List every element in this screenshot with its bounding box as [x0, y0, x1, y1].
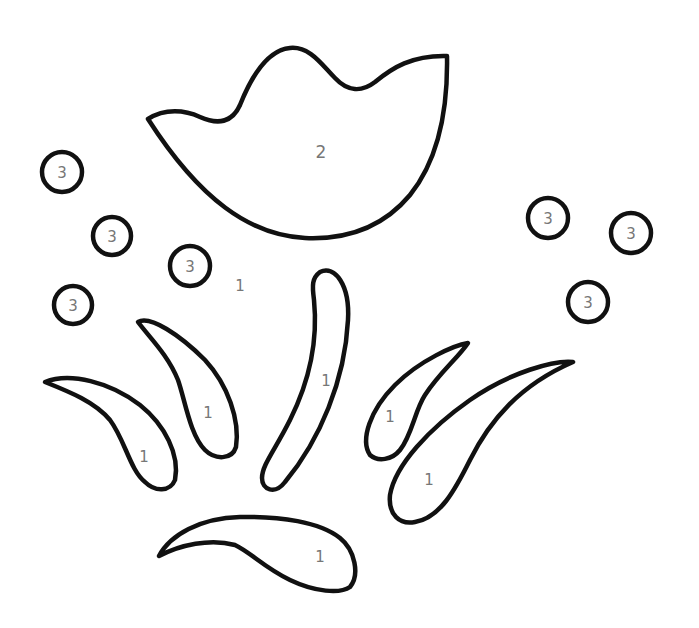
dot[interactable]: 3	[54, 286, 92, 324]
dot-number: 3	[583, 294, 593, 312]
flower-number: 2	[316, 142, 327, 162]
dot-number: 3	[68, 297, 78, 315]
leaf-number: 1	[385, 408, 395, 426]
stem[interactable]: 1	[262, 271, 348, 490]
leaf-number: 1	[139, 448, 149, 466]
dot-number: 3	[626, 225, 636, 243]
leaf-bottom[interactable]: 1	[159, 517, 355, 591]
dot[interactable]: 3	[170, 246, 210, 286]
leaf-number: 1	[321, 372, 331, 390]
dot[interactable]: 3	[528, 198, 568, 238]
dot[interactable]: 3	[42, 152, 82, 192]
dot[interactable]: 3	[568, 282, 608, 322]
leaf-number: 1	[424, 471, 434, 489]
dot-number: 3	[185, 258, 195, 276]
dot-number: 3	[543, 210, 553, 228]
leaf-far-left[interactable]: 1	[45, 378, 176, 489]
dot[interactable]: 3	[93, 217, 131, 255]
tulip-flower[interactable]: 2	[148, 48, 447, 238]
leaf-number: 1	[203, 404, 213, 422]
dot[interactable]: 3	[611, 213, 651, 253]
background-number: 1	[235, 277, 245, 295]
coloring-page: 2 1 1 1 1 1 1 1 3 3 3 3	[0, 0, 699, 628]
leaf-number: 1	[315, 548, 325, 566]
dot-number: 3	[107, 228, 117, 246]
dot-number: 3	[57, 164, 67, 182]
